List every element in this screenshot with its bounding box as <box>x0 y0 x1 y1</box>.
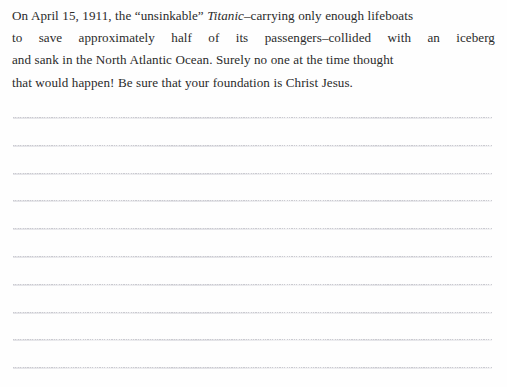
writing-line-haze <box>13 367 492 369</box>
writing-line-dots <box>13 256 492 257</box>
writing-line <box>13 145 492 147</box>
journal-page: On April 15, 1911, the “unsinkable” Tita… <box>0 0 507 387</box>
paragraph-line-2-word: half <box>171 27 192 49</box>
writing-line-dots <box>13 200 492 201</box>
writing-line <box>13 339 492 341</box>
writing-line-dots <box>13 228 492 229</box>
writing-line-haze <box>13 339 492 341</box>
writing-line <box>13 173 492 175</box>
paragraph-line-1: On April 15, 1911, the “unsinkable” Tita… <box>12 5 495 27</box>
paragraph-line-2-word: its <box>236 27 249 49</box>
writing-line-dots <box>13 284 492 285</box>
paragraph-line-2-word: iceberg <box>456 27 495 49</box>
writing-line-haze <box>13 256 492 258</box>
writing-line-haze <box>13 284 492 286</box>
writing-line <box>13 367 492 369</box>
paragraph-line-2-word: of <box>208 27 219 49</box>
paragraph-line-2-word: save <box>39 27 62 49</box>
writing-line-dots <box>13 312 492 313</box>
paragraph-line-2-word: with <box>388 27 411 49</box>
writing-line-haze <box>13 117 492 119</box>
paragraph-line-2: tosaveapproximatelyhalfofitspassengers–c… <box>12 27 495 49</box>
writing-line-dots <box>13 117 492 118</box>
writing-line-haze <box>13 228 492 230</box>
writing-line-dots <box>13 339 492 340</box>
paragraph-line-3: and sank in the North Atlantic Ocean. Su… <box>12 49 495 71</box>
paragraph-line-1-part-1: On April 15, 1911, the “unsinkable” <box>12 8 207 23</box>
writing-line <box>13 117 492 119</box>
paragraph-line-2-word: approximately <box>79 27 155 49</box>
paragraph-line-2-word: passengers–collided <box>265 27 371 49</box>
writing-line-dots <box>13 173 492 174</box>
writing-line-dots <box>13 367 492 368</box>
paragraph-line-4: that would happen! Be sure that your fou… <box>12 72 495 94</box>
paragraph-line-2-word: to <box>12 27 22 49</box>
paragraph-line-1-part-3: –carrying only enough lifeboats <box>244 8 413 23</box>
devotional-paragraph: On April 15, 1911, the “unsinkable” Tita… <box>12 5 495 94</box>
writing-line <box>13 200 492 202</box>
writing-line-haze <box>13 173 492 175</box>
writing-line <box>13 228 492 230</box>
writing-line-haze <box>13 145 492 147</box>
paragraph-line-2-word: an <box>427 27 439 49</box>
writing-line-haze <box>13 200 492 202</box>
writing-line-dots <box>13 145 492 146</box>
titanic-italic-word: Titanic <box>207 8 244 23</box>
writing-line <box>13 312 492 314</box>
writing-line <box>13 256 492 258</box>
writing-line <box>13 284 492 286</box>
writing-line-haze <box>13 312 492 314</box>
